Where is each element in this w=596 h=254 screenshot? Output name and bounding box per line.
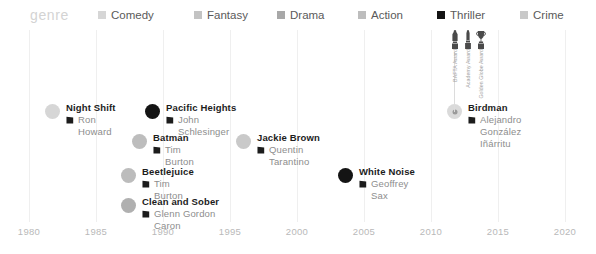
film-title: Jackie Brown bbox=[257, 132, 320, 144]
film-genre-dot[interactable] bbox=[45, 104, 60, 119]
film-genre-dot[interactable] bbox=[236, 134, 251, 149]
film-director-row: Tim Burton bbox=[153, 144, 194, 168]
axis-tick-label: 2005 bbox=[353, 226, 375, 237]
film-title: Batman bbox=[153, 132, 194, 144]
legend-swatch-icon bbox=[194, 11, 202, 19]
award-label: Golden Globe Award bbox=[478, 49, 484, 99]
axis-tick-label: 1985 bbox=[85, 226, 107, 237]
clapperboard-icon bbox=[359, 180, 367, 188]
clapperboard-icon bbox=[142, 210, 150, 218]
film-genre-dot[interactable] bbox=[121, 198, 136, 213]
film-genre-dot[interactable] bbox=[338, 168, 353, 183]
film-genre-dot[interactable] bbox=[121, 168, 136, 183]
legend-swatch-icon bbox=[520, 11, 528, 19]
legend-item-label: Crime bbox=[533, 9, 564, 21]
legend-item-thriller[interactable]: Thriller bbox=[437, 9, 485, 21]
gridline bbox=[431, 30, 432, 222]
clapperboard-icon bbox=[153, 146, 161, 154]
legend-item-label: Action bbox=[371, 9, 403, 21]
film-director: Ron Howard bbox=[78, 114, 116, 138]
gridline bbox=[29, 30, 30, 222]
film-title: Pacific Heights bbox=[166, 102, 236, 114]
film-director-row: Alejandro González Iñárritu bbox=[468, 114, 522, 150]
film-director-row: Ron Howard bbox=[66, 114, 116, 138]
film-director: Tim Burton bbox=[165, 144, 194, 168]
film-title: Clean and Sober bbox=[142, 196, 219, 208]
gridline bbox=[297, 30, 298, 222]
clapperboard-icon bbox=[257, 146, 265, 154]
axis-tick-label: 2000 bbox=[286, 226, 308, 237]
legend-item-label: Fantasy bbox=[207, 9, 248, 21]
legend-title: genre bbox=[30, 7, 69, 23]
film-director: Quentin Tarantino bbox=[269, 144, 320, 168]
clapperboard-icon bbox=[166, 116, 174, 124]
axis-tick-label: 2010 bbox=[420, 226, 442, 237]
film-label-group: Night ShiftRon Howard bbox=[66, 102, 116, 138]
oscar-statuette-icon bbox=[463, 30, 474, 49]
axis-tick-label: 1995 bbox=[219, 226, 241, 237]
globe-statuette-icon bbox=[476, 30, 487, 49]
film-genre-dot[interactable] bbox=[145, 104, 160, 119]
clapperboard-icon bbox=[142, 180, 150, 188]
film-director-row: Geoffrey Sax bbox=[359, 178, 415, 202]
clapperboard-icon bbox=[468, 116, 476, 124]
legend-swatch-icon bbox=[437, 11, 445, 19]
film-label-group: BatmanTim Burton bbox=[153, 132, 194, 168]
legend-swatch-icon bbox=[358, 11, 366, 19]
legend-item-label: Thriller bbox=[450, 9, 485, 21]
film-genre-dot[interactable] bbox=[132, 134, 147, 149]
legend-item-action[interactable]: Action bbox=[358, 9, 403, 21]
legend-item-comedy[interactable]: Comedy bbox=[98, 9, 154, 21]
film-title: Beetlejuice bbox=[142, 166, 194, 178]
film-director: Alejandro González Iñárritu bbox=[480, 114, 522, 150]
axis-tick-label: 1990 bbox=[152, 226, 174, 237]
genre-legend: genre ComedyFantasyDramaActionThrillerCr… bbox=[0, 0, 596, 30]
film-director: Geoffrey Sax bbox=[371, 178, 415, 202]
legend-item-label: Comedy bbox=[111, 9, 154, 21]
award-label: Academy Award bbox=[465, 49, 471, 88]
axis-tick-label: 2015 bbox=[487, 226, 509, 237]
gridline bbox=[565, 30, 566, 222]
year-axis: 198019851990199520002005201020152020 bbox=[0, 226, 596, 246]
timeline-plot: Night ShiftRon HowardPacific HeightsJohn… bbox=[0, 30, 596, 254]
legend-item-label: Drama bbox=[290, 9, 325, 21]
film-title: Birdman bbox=[468, 102, 522, 114]
legend-swatch-icon bbox=[277, 11, 285, 19]
film-director-row: Quentin Tarantino bbox=[257, 144, 320, 168]
legend-swatch-icon bbox=[98, 11, 106, 19]
axis-tick-label: 2020 bbox=[554, 226, 576, 237]
film-title: White Noise bbox=[359, 166, 415, 178]
legend-item-fantasy[interactable]: Fantasy bbox=[194, 9, 248, 21]
legend-item-crime[interactable]: Crime bbox=[520, 9, 564, 21]
film-label-group: Jackie BrownQuentin Tarantino bbox=[257, 132, 320, 168]
award-label: BAFTA Award bbox=[452, 49, 458, 82]
bafta-statuette-icon bbox=[450, 30, 461, 49]
film-title: Night Shift bbox=[66, 102, 116, 114]
axis-tick-label: 1980 bbox=[18, 226, 40, 237]
film-label-group: BirdmanAlejandro González Iñárritu bbox=[468, 102, 522, 150]
legend-item-drama[interactable]: Drama bbox=[277, 9, 325, 21]
film-label-group: White NoiseGeoffrey Sax bbox=[359, 166, 415, 202]
clapperboard-icon bbox=[66, 116, 74, 124]
